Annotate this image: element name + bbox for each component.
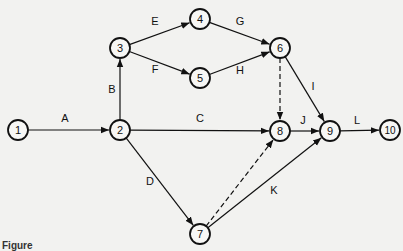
node-6: 6 xyxy=(270,38,290,58)
edge-label: L xyxy=(354,114,360,126)
edge-2-8 xyxy=(130,130,269,131)
node-label: 9 xyxy=(327,125,333,137)
edge-label: G xyxy=(236,15,245,27)
node-label: 3 xyxy=(117,42,123,54)
edge-7-9 xyxy=(208,138,322,228)
node-label: 1 xyxy=(15,124,21,136)
node-8: 8 xyxy=(270,121,290,141)
edge-2-7 xyxy=(126,138,193,225)
node-label: 6 xyxy=(277,42,283,54)
edge-6-9 xyxy=(285,57,324,122)
node-3: 3 xyxy=(110,38,130,58)
edge-label: I xyxy=(311,80,314,92)
node-label: 4 xyxy=(197,13,203,25)
edge-label: J xyxy=(300,114,306,126)
node-label: 10 xyxy=(384,125,396,136)
nodes-layer: 12345678910 xyxy=(8,9,400,244)
edge-label: E xyxy=(151,15,158,27)
edge-label: D xyxy=(146,175,154,187)
node-1: 1 xyxy=(8,120,28,140)
node-7: 7 xyxy=(190,224,210,244)
node-4: 4 xyxy=(190,9,210,29)
edge-3-5 xyxy=(129,52,189,75)
edge-9-10 xyxy=(340,130,379,131)
node-5: 5 xyxy=(190,68,210,88)
edge-label: C xyxy=(196,112,204,124)
node-label: 8 xyxy=(277,125,283,137)
node-label: 7 xyxy=(197,228,203,240)
figure-caption: Figure xyxy=(2,240,33,251)
node-9: 9 xyxy=(320,121,340,141)
node-10: 10 xyxy=(380,120,400,140)
edge-label: H xyxy=(236,64,244,76)
edge-3-4 xyxy=(129,23,189,45)
edge-label: A xyxy=(61,112,69,124)
node-label: 2 xyxy=(117,124,123,136)
node-label: 5 xyxy=(197,72,203,84)
edge-7-8 xyxy=(206,140,273,226)
edge-label: K xyxy=(270,184,278,196)
edge-label: F xyxy=(152,63,159,75)
edge-label: B xyxy=(108,83,115,95)
node-2: 2 xyxy=(110,120,130,140)
